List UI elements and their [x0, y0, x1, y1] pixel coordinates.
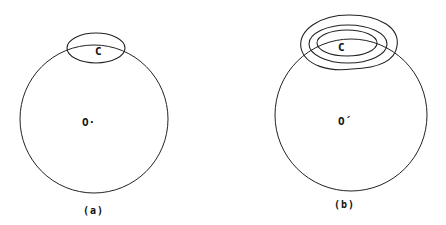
cap-label-b: C: [338, 41, 345, 54]
cap-loop-b-outer: [301, 15, 398, 70]
center-label-a: O·: [82, 116, 95, 129]
figure-canvas: C O· (a) C O´ (b): [0, 0, 446, 225]
cap-label-a: C: [95, 45, 102, 58]
caption-b: (b): [334, 199, 355, 210]
panel-b: C O´ (b): [275, 15, 427, 210]
caption-a: (a): [83, 205, 104, 216]
center-label-b: O´: [338, 115, 351, 128]
panel-a: C O· (a): [20, 33, 168, 216]
cap-loop-b-middle: [309, 25, 387, 63]
